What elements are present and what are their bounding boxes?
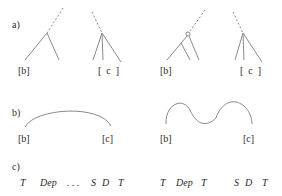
arc-right-start: [b] xyxy=(160,134,172,144)
tree-2 xyxy=(92,12,121,62)
seq-left-4: D xyxy=(102,178,109,188)
tree-1 xyxy=(25,8,63,60)
arc-left-start: [b] xyxy=(18,134,30,144)
arc-single xyxy=(25,111,111,127)
seq-left-3: S xyxy=(91,178,96,188)
diagram-lines xyxy=(0,0,282,196)
seq-left-5: T xyxy=(118,178,124,188)
panel-b-label: b) xyxy=(12,108,20,118)
arc-left-end: [c] xyxy=(102,134,113,144)
arc-right-end: [c] xyxy=(243,134,254,144)
seq-left-0: T xyxy=(20,178,26,188)
seq-left-1: Dep xyxy=(40,178,57,188)
seq-right-1: Dep xyxy=(176,178,193,188)
tree-2-leaf: [ c ] xyxy=(98,66,119,76)
tree-3 xyxy=(167,10,205,60)
seq-right-0: T xyxy=(160,178,166,188)
seq-right-5: T xyxy=(262,178,268,188)
tree-3-leaf: [b] xyxy=(160,66,172,76)
tree-4-leaf: [ c ] xyxy=(240,66,261,76)
tree-1-leaf: [b] xyxy=(18,66,30,76)
arc-wavy xyxy=(166,102,252,124)
seq-right-2: T xyxy=(201,178,207,188)
seq-left-2: . . . xyxy=(67,178,80,188)
seq-right-3: S xyxy=(234,178,239,188)
seq-right-4: D xyxy=(245,178,252,188)
panel-a-label: a) xyxy=(12,20,20,30)
panel-c-label: c) xyxy=(12,162,20,172)
tree-4 xyxy=(233,12,262,62)
